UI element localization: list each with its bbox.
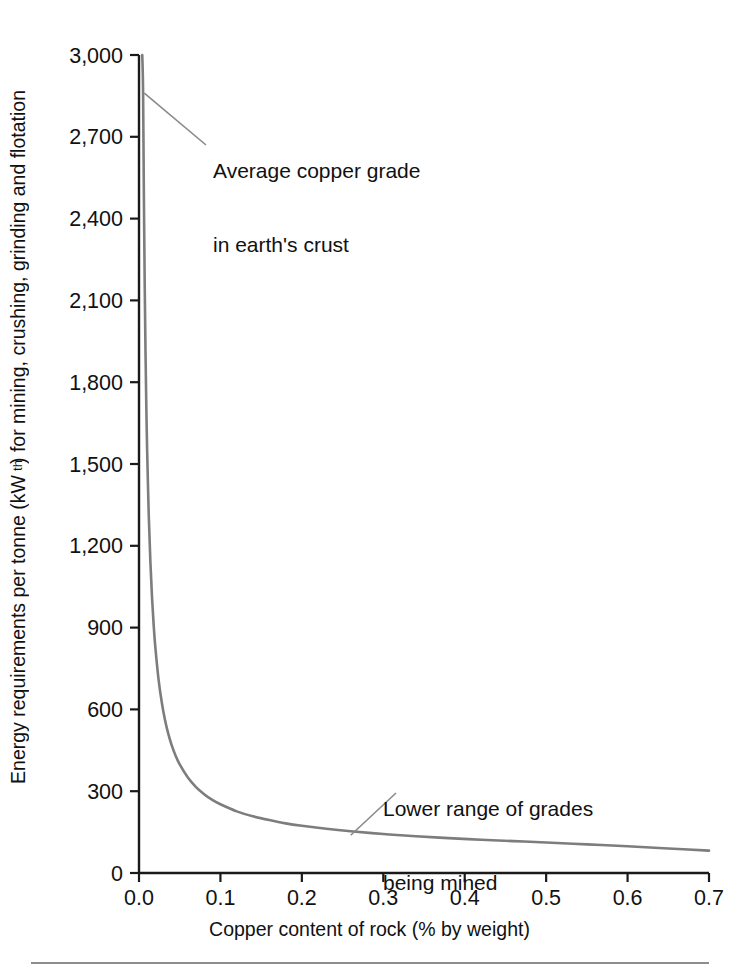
annotation-crust-line1: Average copper grade — [213, 159, 420, 184]
x-tick-label: 0.6 — [613, 886, 643, 910]
y-tick-label: 900 — [87, 616, 123, 640]
y-axis-title-prefix: Energy requirements per tonne (kW — [7, 475, 29, 784]
annotation-crust-line2: in earth's crust — [213, 233, 420, 258]
y-tick-label: 1,800 — [69, 371, 123, 395]
y-tick-label: 1,500 — [69, 453, 123, 477]
y-tick-label: 2,100 — [69, 289, 123, 313]
y-tick-label: 2,700 — [69, 125, 123, 149]
x-axis-title: Copper content of rock (% by weight) — [0, 918, 739, 941]
y-tick-label: 0 — [111, 862, 123, 886]
y-axis-title-subscript: th — [10, 460, 25, 471]
annotation-mined-line2: being mined — [383, 871, 593, 896]
y-axis-title: Energy requirements per tonne (kWth) for… — [7, 90, 30, 784]
x-tick-label: 0.0 — [124, 886, 154, 910]
annotation-average-copper-grade: Average copper grade in earth's crust — [213, 109, 420, 307]
x-tick-label: 0.2 — [287, 886, 317, 910]
y-tick-label: 300 — [87, 780, 123, 804]
figure-container: 03006009001,2001,5001,8002,1002,4002,700… — [0, 0, 739, 977]
annotation-lower-range-grades: Lower range of grades being mined — [383, 747, 593, 945]
y-tick-label: 2,400 — [69, 207, 123, 231]
y-tick-label: 3,000 — [69, 44, 123, 68]
y-tick-label: 600 — [87, 698, 123, 722]
footer-rule — [31, 962, 709, 964]
annotation-mined-line1: Lower range of grades — [383, 797, 593, 822]
x-tick-label: 0.7 — [694, 886, 724, 910]
x-tick-label: 0.1 — [205, 886, 235, 910]
y-axis-title-suffix: ) for mining, crushing, grinding and flo… — [7, 90, 29, 464]
y-axis-title-wrapper: Energy requirements per tonne (kWth) for… — [0, 0, 36, 873]
y-tick-label: 1,200 — [69, 534, 123, 558]
